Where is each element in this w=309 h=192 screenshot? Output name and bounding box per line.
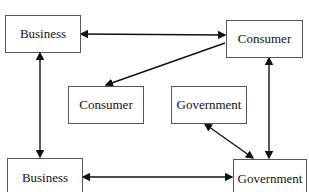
- edge-business-consumer-top: [81, 34, 225, 35]
- node-business-bottom: Business: [7, 158, 83, 192]
- edge-consumer-top-to-consumer-mid: [106, 43, 225, 85]
- node-government-mid: Government: [171, 86, 247, 124]
- node-label: Government: [177, 97, 242, 113]
- node-consumer-top: Consumer: [226, 20, 303, 58]
- node-government-bottom: Government: [233, 159, 307, 192]
- node-label: Business: [22, 170, 68, 186]
- node-label: Consumer: [238, 31, 291, 47]
- node-label: Government: [238, 171, 303, 187]
- node-label: Business: [20, 26, 66, 42]
- node-label: Consumer: [79, 97, 132, 113]
- edge-government-mid-bottom: [205, 124, 253, 158]
- node-business-top: Business: [5, 15, 81, 53]
- node-consumer-mid: Consumer: [68, 86, 144, 124]
